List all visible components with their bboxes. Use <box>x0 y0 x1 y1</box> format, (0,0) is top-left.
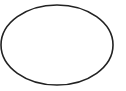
ellipse-shape <box>1 5 113 85</box>
diagram-canvas <box>0 0 126 91</box>
